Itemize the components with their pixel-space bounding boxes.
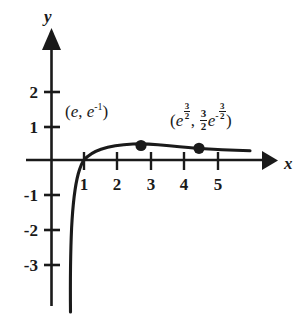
inflection-point-label: (e32, 32e-32) (170, 102, 232, 132)
paren-close-2: ) (226, 111, 232, 130)
x-tick-label-5: 5 (208, 176, 228, 193)
comma-sep-2: , (191, 111, 200, 130)
x-tick-label-2: 2 (107, 176, 127, 193)
y-tick-label-neg2: -2 (6, 222, 38, 239)
coef-numerator: 3 (200, 108, 208, 119)
x-tick-label-3: 3 (141, 176, 161, 193)
exp-denominator: 2 (184, 111, 191, 121)
x-tick-label-4: 4 (174, 176, 194, 193)
function-curve (70, 144, 250, 312)
exponent-three-halves: 32 (183, 102, 191, 121)
yexp-denominator: 2 (219, 111, 226, 121)
graph-canvas (0, 0, 303, 319)
paren-close: ) (103, 102, 109, 121)
maximum-point-dot (135, 140, 146, 151)
x-axis-arrowhead (262, 151, 278, 170)
exponent-neg-one: -1 (94, 101, 102, 112)
y-tick-label-neg3: -3 (6, 257, 38, 274)
x-tick-label-1: 1 (74, 176, 94, 193)
y-tick-label-neg1: -1 (6, 187, 38, 204)
y-tick-label-2: 2 (14, 84, 38, 101)
yexp-numerator: 3 (219, 102, 226, 111)
exp-numerator: 3 (184, 102, 191, 111)
y-tick-label-1: 1 (14, 119, 38, 136)
graph-figure: y x 2 1 -1 -2 -3 1 2 3 4 5 (e, e-1) (e32… (0, 0, 303, 319)
inflection-point-dot (193, 143, 204, 154)
e-symbol-x2: e (176, 111, 184, 130)
coef-denominator: 2 (200, 120, 208, 132)
comma-sep: , (78, 102, 87, 121)
x-axis-label: x (284, 155, 293, 172)
exponent-neg-three-halves: 32 (219, 102, 227, 121)
y-axis-arrowhead (42, 28, 61, 50)
maximum-point-label: (e, e-1) (65, 103, 108, 120)
y-axis-label: y (44, 8, 52, 25)
coefficient-three-halves: 32 (200, 108, 208, 131)
